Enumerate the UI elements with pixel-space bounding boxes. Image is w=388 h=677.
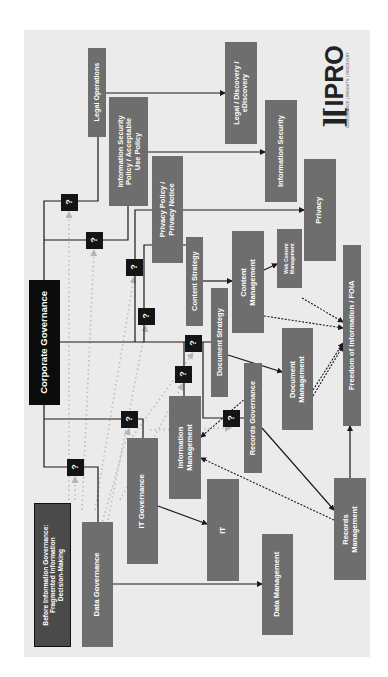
question-mark-icon: ? (64, 199, 74, 205)
node-information-security: Information Security (265, 100, 297, 202)
node-foia: Freedom of Information / FOIA (343, 245, 361, 426)
node-label: Information Management (177, 424, 194, 470)
question-marker-privacy-policy: ? (126, 259, 143, 276)
arrow-connector (264, 264, 277, 270)
node-label: Information Security (277, 115, 285, 187)
question-mark-icon: ? (129, 264, 139, 270)
logo-name: IPRO (320, 45, 349, 106)
node-label: Corporate Governance (39, 291, 50, 394)
node-legal-operations: Legal Operations (88, 48, 106, 137)
node-label: Records Management (342, 506, 359, 552)
arrow-connector (262, 428, 334, 510)
node-label: Document Management (289, 356, 306, 402)
question-mark-icon: ? (226, 415, 236, 421)
node-document-strategy: Document Strategy (211, 288, 228, 397)
question-marker-records-governance: ? (223, 410, 240, 427)
gray-dotted-arrow (100, 429, 129, 530)
gray-dotted-arrow (82, 250, 94, 510)
node-label: IT (219, 527, 228, 534)
node-records-management: Records Management (334, 478, 366, 580)
question-marker-content-strategy: ? (138, 308, 155, 325)
node-label: Document Strategy (215, 309, 223, 377)
question-marker-infosec-policy: ? (86, 232, 103, 249)
node-label: Records Governance (249, 381, 257, 455)
question-mark-icon: ? (124, 416, 134, 422)
logo-tagline: GOVERNANCE | INSIGHTS | DISCOVERY (346, 38, 354, 128)
question-marker-it-governance: ? (121, 411, 138, 428)
arrow-connector (158, 506, 207, 524)
node-privacy-policy: Privacy Policy / Privacy Notice (152, 156, 183, 263)
diagram-canvas: Corporate GovernanceBefore Information G… (0, 0, 388, 677)
question-marker-document-strategy: ? (185, 335, 202, 352)
node-data-governance: Data Governance (82, 522, 113, 647)
logo-wordmark: ][ IPRO (322, 38, 346, 128)
node-infosec-policy: Information Security Policy / Acceptable… (109, 97, 148, 206)
node-legal-discovery: Legal / Discovery / eDiscovery (225, 42, 257, 144)
node-label: Content Management (240, 259, 257, 305)
node-web-content-management: Web Content Management (277, 229, 302, 288)
dotted-arrow-connector (264, 316, 343, 328)
node-label: Legal Operations (93, 63, 101, 122)
ipro-logo: ][ IPRO GOVERNANCE | INSIGHTS | DISCOVER… (322, 38, 362, 128)
question-marker-information-management: ? (175, 366, 192, 383)
question-mark-icon: ? (89, 237, 99, 243)
node-information-management: Information Management (169, 396, 201, 499)
node-it: IT (207, 479, 239, 581)
question-mark-icon: ? (70, 464, 80, 470)
dotted-arrow-connector (302, 298, 343, 322)
dotted-arrow-connector (313, 346, 343, 396)
node-label: Content Strategy (190, 252, 198, 312)
node-it-governance: IT Governance (127, 438, 158, 564)
dotted-arrow-connector (313, 343, 343, 390)
node-corporate-governance: Corporate Governance (29, 280, 60, 405)
node-label: Data Governance (93, 552, 102, 616)
node-label: Data Management (273, 552, 282, 617)
node-label: Legal / Discovery / eDiscovery (233, 61, 249, 124)
question-mark-icon: ? (141, 313, 151, 319)
node-label: Freedom of Information / FOIA (348, 281, 357, 391)
node-label: Privacy (316, 196, 325, 223)
node-privacy: Privacy (304, 159, 336, 261)
node-document-management: Document Management (282, 328, 313, 430)
question-mark-icon: ? (188, 340, 198, 346)
node-records-governance: Records Governance (244, 363, 262, 473)
question-marker-legal-operations: ? (61, 194, 78, 211)
node-label: Information Security Policy / Acceptable… (116, 116, 141, 188)
logo-mark-icon: ][ (319, 109, 349, 128)
node-content-management: Content Management (232, 231, 264, 333)
node-label: Before Information Governance: Fragmente… (41, 524, 63, 625)
node-label: IT Governance (138, 474, 147, 528)
node-data-management: Data Management (262, 534, 293, 635)
node-title: Before Information Governance: Fragmente… (34, 503, 71, 647)
node-content-strategy: Content Strategy (186, 237, 203, 326)
node-label: Web Content Management (284, 243, 295, 274)
node-label: Privacy Policy / Privacy Notice (159, 182, 176, 238)
question-mark-icon: ? (178, 371, 188, 377)
question-marker-data-governance: ? (67, 459, 84, 476)
